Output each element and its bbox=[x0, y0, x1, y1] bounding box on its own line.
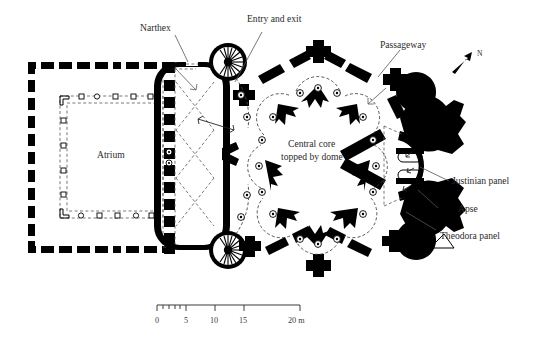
floor-plan-svg: N Narthex Entry and exit Passageway Atri… bbox=[0, 0, 545, 342]
core-column bbox=[360, 211, 367, 218]
stair-tower-north bbox=[209, 43, 247, 81]
atrium-columns-north bbox=[79, 94, 153, 99]
core-column bbox=[370, 189, 377, 196]
core-column bbox=[334, 90, 341, 97]
label-central-core-line1: Central core bbox=[288, 138, 335, 149]
label-narthex: Narthex bbox=[140, 22, 171, 33]
core-column bbox=[297, 90, 304, 97]
atrium-columns-south bbox=[78, 213, 154, 218]
label-central-core-line2: topped by dome bbox=[281, 151, 343, 162]
atrium-east-wall bbox=[164, 62, 175, 254]
scale-bar: 0 5 10 15 20 m bbox=[155, 305, 305, 325]
central-core bbox=[248, 77, 388, 255]
connector-column bbox=[244, 192, 251, 199]
scale-tick-0: 0 bbox=[155, 316, 159, 325]
scale-tick-15: 15 bbox=[239, 316, 247, 325]
core-column bbox=[360, 114, 367, 121]
label-passageway: Passageway bbox=[380, 39, 427, 50]
atrium-columns-west bbox=[61, 118, 66, 197]
core-piers bbox=[265, 85, 370, 248]
label-atrium: Atrium bbox=[97, 149, 125, 160]
scalebar-major-ticks bbox=[157, 305, 300, 311]
atrium-north-wall bbox=[28, 62, 173, 69]
label-justinian-panel: Justinian panel bbox=[452, 175, 510, 186]
scale-tick-10: 10 bbox=[210, 316, 218, 325]
scalebar-minor-ticks bbox=[163, 305, 180, 309]
core-column bbox=[334, 236, 341, 243]
core-column bbox=[315, 241, 322, 248]
core-column bbox=[370, 137, 377, 144]
label-entry-and-exit: Entry and exit bbox=[247, 13, 302, 24]
narthex-vault-ribs bbox=[176, 82, 214, 226]
connector-column bbox=[238, 214, 245, 221]
core-column bbox=[297, 236, 304, 243]
connector-column bbox=[244, 114, 251, 121]
core-column bbox=[270, 211, 277, 218]
label-apse: Apse bbox=[458, 203, 478, 214]
scale-unit-label: 20 m bbox=[288, 316, 305, 325]
connector-column bbox=[238, 92, 245, 99]
core-column bbox=[315, 85, 322, 92]
core-column bbox=[373, 163, 380, 170]
atrium-west-wall bbox=[28, 62, 35, 253]
north-label: N bbox=[477, 49, 483, 58]
floor-plan-figure: N Narthex Entry and exit Passageway Atri… bbox=[0, 0, 545, 342]
core-column bbox=[270, 114, 277, 121]
label-theodora-panel: Theodora panel bbox=[440, 230, 500, 241]
core-column bbox=[256, 163, 263, 170]
north-arrow bbox=[452, 52, 472, 74]
core-column bbox=[259, 189, 266, 196]
core-column bbox=[259, 137, 266, 144]
atrium-south-wall bbox=[28, 246, 173, 253]
scale-tick-5: 5 bbox=[184, 316, 188, 325]
